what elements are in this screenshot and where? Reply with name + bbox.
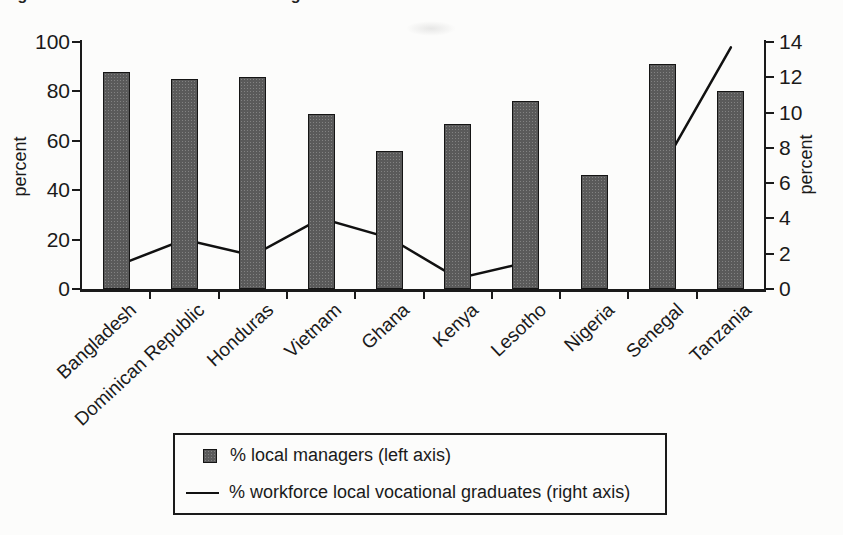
legend-box: % local managers (left axis) % workforce… [173,433,667,515]
right-axis-tick-label: 14 [779,31,829,53]
legend-item-bar: % local managers (left axis) [175,437,665,474]
left-axis-tick [72,189,80,191]
right-axis-tick-label: 0 [779,278,829,300]
legend-label-bar: % local managers (left axis) [230,445,451,466]
right-axis-title: percent [796,120,817,210]
left-axis-tick-label: 20 [24,229,70,251]
bar-bangladesh [103,72,130,289]
right-axis-tick [766,182,774,184]
left-axis-tick-label: 40 [24,179,70,201]
figure-title-text: Figure 3.14SEZ Labor Market Integration [3,0,346,4]
left-axis-tick-label: 0 [24,278,70,300]
right-axis-tick [766,112,774,114]
x-axis-tick [286,292,288,299]
x-axis-tick [423,292,425,299]
figure-title-clipped: Figure 3.14SEZ Labor Market Integration [3,0,473,8]
x-axis-tick [491,292,493,299]
right-axis-tick [766,41,774,43]
bar-senegal [649,64,676,289]
scan-smudge [406,21,456,36]
right-axis-tick [766,76,774,78]
bar-honduras [239,77,266,289]
bar-kenya [444,124,471,289]
bar-ghana [376,151,403,289]
left-axis-tick-label: 60 [24,130,70,152]
bar-lesotho [512,101,539,289]
figure-title: SEZ Labor Market Integration [118,0,347,3]
left-axis-tick [72,288,80,290]
right-axis-tick [766,253,774,255]
x-axis-tick [559,292,561,299]
left-axis-tick-label: 80 [24,80,70,102]
bar-nigeria [581,175,608,289]
right-axis-tick [766,217,774,219]
left-axis-tick-label: 100 [24,31,70,53]
right-axis-tick [766,288,774,290]
legend-label-line: % workforce local vocational graduates (… [229,482,630,503]
right-axis-tick-label: 2 [779,243,829,265]
right-axis-tick [766,147,774,149]
bar-vietnam [308,114,335,289]
plot-area [82,42,765,289]
figure-canvas: Figure 3.14SEZ Labor Market Integration … [0,0,843,535]
right-axis-tick-label: 4 [779,207,829,229]
left-axis-tick [72,90,80,92]
figure-label: Figure 3.14 [3,0,90,3]
bar-swatch-icon [203,449,217,463]
right-axis-tick-label: 12 [779,66,829,88]
x-axis-tick [354,292,356,299]
right-axis-tick-label: 6 [779,172,829,194]
x-axis-tick [627,292,629,299]
x-axis-tick [218,292,220,299]
left-axis-tick [72,140,80,142]
x-axis-tick [149,292,151,299]
bar-tanzania [717,91,744,289]
left-axis-tick [72,41,80,43]
legend-item-line: % workforce local vocational graduates (… [175,474,665,511]
line-swatch-icon [186,492,219,494]
bar-dominican-republic [171,79,198,289]
right-axis-tick-label: 10 [779,102,829,124]
x-axis-tick [696,292,698,299]
left-axis-tick [72,239,80,241]
right-axis-tick-label: 8 [779,137,829,159]
